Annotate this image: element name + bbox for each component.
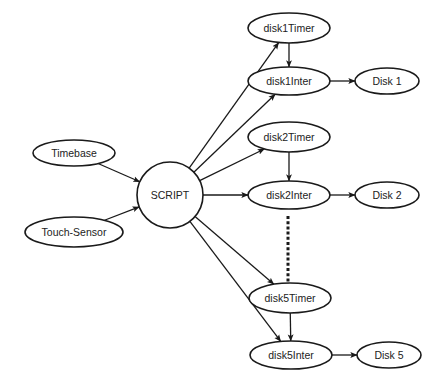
- node-disk1-timer: disk1Timer: [248, 13, 330, 43]
- edge-script-to-disk2-timer: [200, 149, 265, 181]
- timebase-label: Timebase: [51, 147, 97, 159]
- node-disk5-timer: disk5Timer: [249, 283, 331, 313]
- node-timebase: Timebase: [33, 140, 115, 166]
- disk5-timer-label: disk5Timer: [265, 292, 316, 304]
- edge-timebase-to-script: [98, 164, 140, 182]
- node-disk5: Disk 5: [357, 342, 421, 368]
- edge-script-to-disk5-timer: [195, 216, 274, 284]
- disk1-timer-label: disk1Timer: [264, 22, 315, 34]
- disk1-inter-label: disk1Inter: [266, 75, 312, 87]
- disk2-timer-label: disk2Timer: [264, 131, 315, 143]
- nodes-layer: TimebaseTouch-SensorSCRIPTdisk1Timerdisk…: [25, 13, 421, 369]
- edge-touch-sensor-to-script: [104, 207, 139, 220]
- node-disk2: Disk 2: [355, 182, 419, 208]
- flow-diagram: TimebaseTouch-SensorSCRIPTdisk1Timerdisk…: [0, 0, 435, 388]
- node-disk2-inter: disk2Inter: [248, 181, 330, 209]
- edge-script-to-disk5-inter: [190, 221, 281, 341]
- node-script: SCRIPT: [137, 162, 203, 228]
- node-disk2-timer: disk2Timer: [248, 122, 330, 152]
- disk2-inter-label: disk2Inter: [266, 189, 312, 201]
- node-disk1: Disk 1: [355, 68, 419, 94]
- script-label: SCRIPT: [151, 189, 190, 201]
- node-disk5-inter: disk5Inter: [250, 341, 332, 369]
- disk5-label: Disk 5: [374, 349, 403, 361]
- node-disk1-inter: disk1Inter: [248, 67, 330, 95]
- disk2-label: Disk 2: [372, 189, 401, 201]
- touch-sensor-label: Touch-Sensor: [42, 226, 107, 238]
- node-touch-sensor: Touch-Sensor: [25, 217, 123, 247]
- disk5-inter-label: disk5Inter: [268, 349, 314, 361]
- disk1-label: Disk 1: [372, 75, 401, 87]
